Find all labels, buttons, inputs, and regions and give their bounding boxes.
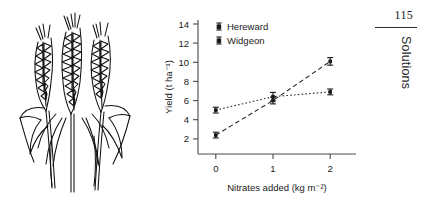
y-tick-label: 14 — [178, 19, 189, 30]
page-furniture: 115 Solutions — [361, 4, 419, 204]
x-axis-tick-labels: 0 1 2 — [213, 163, 333, 174]
legend-label-hereward: Hereward — [227, 21, 268, 32]
running-head: Solutions — [399, 36, 417, 186]
y-tick-label: 8 — [184, 76, 189, 87]
yield-vs-nitrates-chart: 14 12 10 8 6 4 2 0 1 2 Nitrates added (k… — [160, 2, 360, 207]
y-axis-tick-labels: 14 12 10 8 6 4 2 — [178, 19, 189, 145]
wheat-illustration — [8, 6, 158, 206]
folio-divider-rule — [375, 27, 417, 28]
x-tick-label: 0 — [213, 163, 218, 174]
running-head-label: Solutions — [399, 36, 413, 89]
y-axis-title: Yield (t ha⁻¹) — [163, 60, 174, 114]
page-number: 115 — [395, 8, 413, 23]
legend-marker-widgeon — [216, 37, 221, 44]
x-tick-label: 2 — [328, 163, 333, 174]
page-root: 14 12 10 8 6 4 2 0 1 2 Nitrates added (k… — [0, 0, 423, 212]
chart-svg: 14 12 10 8 6 4 2 0 1 2 Nitrates added (k… — [160, 2, 360, 207]
x-axis-title: Nitrates added (kg m⁻²) — [227, 182, 327, 193]
series-hereward — [213, 58, 333, 138]
x-tick-label: 1 — [270, 163, 275, 174]
y-tick-label: 4 — [184, 114, 189, 125]
chart-legend: Hereward Widgeon — [216, 21, 268, 46]
wheat-ears-icon — [8, 6, 158, 206]
x-axis-ticks — [216, 154, 330, 159]
y-tick-label: 10 — [178, 57, 189, 68]
y-tick-label: 12 — [178, 38, 189, 49]
y-tick-label: 2 — [184, 133, 189, 144]
y-axis-ticks — [193, 24, 198, 139]
legend-item-widgeon: Widgeon — [216, 35, 264, 46]
legend-marker-hereward — [216, 23, 221, 30]
legend-item-hereward: Hereward — [216, 21, 268, 32]
y-tick-label: 6 — [184, 95, 189, 106]
legend-label-widgeon: Widgeon — [227, 35, 265, 46]
